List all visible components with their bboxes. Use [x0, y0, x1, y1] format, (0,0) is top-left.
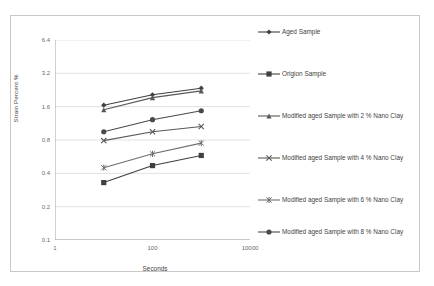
legend-label: Modified aged Sample with 4 % Nano Clay [282, 153, 403, 163]
legend-label: Origion Sample [282, 69, 326, 79]
data-point-marker [101, 129, 106, 134]
x-tick-label: 10000 [242, 245, 259, 251]
series-canvas [55, 40, 250, 240]
plot-area [55, 40, 250, 240]
x-axis-title: Seconds [0, 265, 310, 272]
y-tick-label: 0.2 [24, 204, 50, 210]
legend-label: Modified aged Sample with 8 % Nano Clay [282, 227, 403, 237]
x-tick-label: 1 [53, 245, 56, 251]
legend-item[interactable]: Origion Sample [258, 68, 326, 80]
legend-marker-square-icon [258, 69, 280, 79]
chart-legend: Aged SampleOrigion SampleModified aged S… [258, 26, 430, 240]
legend-marker-asterisk-icon [258, 195, 280, 205]
legend-marker [266, 29, 271, 34]
chart-figure: 6.43.21.60.80.40.20.1 110010000 Strain P… [0, 0, 434, 286]
legend-marker-circle-icon [258, 227, 280, 237]
legend-item[interactable]: Modified aged Sample with 6 % Nano Clay [258, 194, 403, 206]
legend-marker-triangle-icon [258, 111, 280, 121]
y-tick-label: 0.4 [24, 170, 50, 176]
legend-label: Modified aged Sample with 6 % Nano Clay [282, 195, 403, 205]
x-tick-label: 100 [147, 245, 157, 251]
legend-item[interactable]: Modified aged Sample with 8 % Nano Clay [258, 226, 403, 238]
y-axis-title: Strain Percent % [12, 54, 19, 144]
y-tick-label: 3.2 [24, 70, 50, 76]
data-point-marker [199, 153, 204, 158]
data-point-marker [150, 163, 155, 168]
legend-marker [266, 229, 271, 234]
legend-item[interactable]: Modified aged Sample with 2 % Nano Clay [258, 110, 403, 122]
y-tick-label: 0.8 [24, 137, 50, 143]
legend-item[interactable]: Aged Sample [258, 26, 320, 38]
legend-marker [266, 71, 271, 76]
x-axis-tick-labels: 110010000 [55, 245, 345, 257]
series-line [104, 155, 202, 182]
data-point-marker [199, 108, 204, 113]
y-tick-label: 0.1 [24, 237, 50, 243]
y-axis-tick-labels: 6.43.21.60.80.40.20.1 [22, 40, 50, 240]
legend-marker-diamond-icon [258, 27, 280, 37]
legend-label: Aged Sample [282, 27, 320, 37]
legend-item[interactable]: Modified aged Sample with 4 % Nano Clay [258, 152, 403, 164]
data-point-marker [101, 180, 106, 185]
legend-label: Modified aged Sample with 2 % Nano Clay [282, 111, 403, 121]
y-tick-label: 1.6 [24, 104, 50, 110]
y-tick-label: 6.4 [24, 37, 50, 43]
data-point-marker [150, 117, 155, 122]
legend-marker-x-icon [258, 153, 280, 163]
